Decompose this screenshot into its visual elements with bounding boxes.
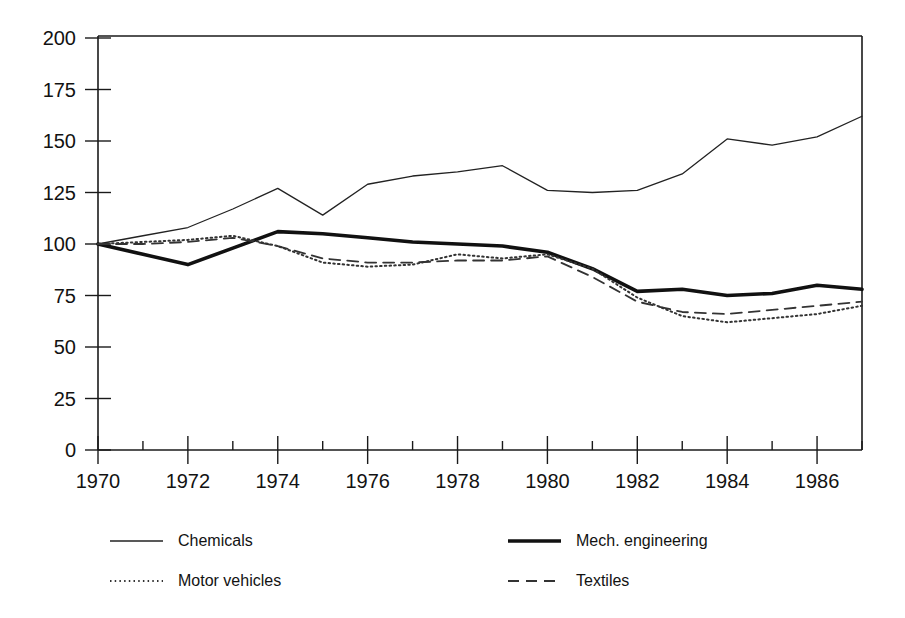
legend-entry-motor-vehicles: Motor vehicles [110, 572, 281, 589]
legend-entry-mech-engineering: Mech. engineering [508, 532, 708, 549]
legend-entry-textiles: Textiles [508, 572, 629, 589]
x-tick-label: 1986 [795, 470, 840, 492]
y-axis-tick-labels: 0255075100125150175200 [43, 27, 76, 461]
x-tick-label: 1980 [525, 470, 570, 492]
x-tick-label: 1972 [166, 470, 211, 492]
legend-label-motor-vehicles: Motor vehicles [178, 572, 281, 589]
chart-axes [98, 36, 862, 450]
series-line-textiles [98, 238, 862, 314]
y-tick-label: 75 [54, 285, 76, 307]
y-tick-label: 100 [43, 233, 76, 255]
legend-label-chemicals: Chemicals [178, 532, 253, 549]
y-tick-label: 0 [65, 439, 76, 461]
x-tick-label: 1984 [705, 470, 750, 492]
chart-legend: ChemicalsMech. engineeringMotor vehicles… [110, 532, 708, 589]
legend-entry-chemicals: Chemicals [110, 532, 253, 549]
y-tick-label: 125 [43, 182, 76, 204]
y-tick-label: 150 [43, 130, 76, 152]
series-line-motor-vehicles [98, 236, 862, 323]
x-tick-label: 1970 [76, 470, 121, 492]
x-axis-tick-labels: 197019721974197619781980198219841986 [76, 470, 840, 492]
x-tick-label: 1982 [615, 470, 660, 492]
y-tick-label: 200 [43, 27, 76, 49]
x-tick-label: 1974 [256, 470, 301, 492]
chart-canvas: 0255075100125150175200 19701972197419761… [0, 0, 905, 618]
line-chart-figure: 0255075100125150175200 19701972197419761… [0, 0, 905, 618]
y-tick-label: 50 [54, 336, 76, 358]
chart-ticks [85, 38, 862, 464]
y-tick-label: 25 [54, 388, 76, 410]
x-tick-label: 1976 [345, 470, 390, 492]
series-line-mech-engineering [98, 232, 862, 296]
chart-series-lines [98, 116, 862, 322]
y-tick-label: 175 [43, 79, 76, 101]
x-tick-label: 1978 [435, 470, 480, 492]
legend-label-textiles: Textiles [576, 572, 629, 589]
series-line-chemicals [98, 116, 862, 244]
legend-label-mech-engineering: Mech. engineering [576, 532, 708, 549]
